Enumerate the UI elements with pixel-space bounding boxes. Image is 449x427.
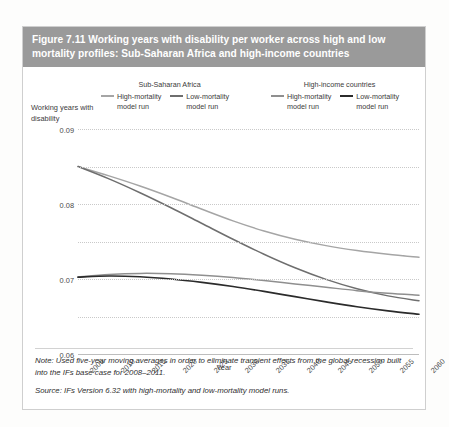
figure-note: Note: Used five-year moving averages in …: [35, 355, 413, 379]
legend-item-ssa-high-mortality[interactable]: High-mortalitymodel run: [101, 92, 161, 112]
gridline: 0.05: [78, 279, 419, 280]
legend-group-high-income: High-income countries High-mortalitymode…: [271, 80, 408, 112]
gridline: 0.08: [78, 167, 419, 168]
gridline: 0.09: [78, 129, 419, 130]
legend-item-hic-high-mortality[interactable]: High-mortalitymodel run: [271, 92, 331, 112]
legend-swatch-line-icon: [101, 95, 114, 97]
legend-group-heading: High-income countries: [271, 80, 408, 89]
divider: [35, 348, 413, 349]
legend-label-line1: High-mortality: [117, 92, 161, 101]
chart-line: [78, 167, 419, 301]
x-axis-tick-label: 2060: [429, 357, 447, 375]
legend-item-hic-low-mortality[interactable]: Low-mortalitymodel run: [340, 92, 399, 112]
gridline: 0.07: [78, 204, 419, 205]
chart-legend: Sub-Saharan Africa High-mortalitymodel r…: [101, 80, 421, 124]
gridline: 0.04: [78, 317, 419, 318]
legend-swatch-line-icon: [170, 95, 183, 97]
y-axis-tick-label: 0.08: [60, 201, 74, 210]
gridline: 0.06: [78, 242, 419, 243]
legend-swatch-line-icon: [340, 95, 353, 97]
y-axis-tick-label: 0.09: [60, 126, 74, 135]
legend-label-line2: model run: [186, 102, 218, 111]
legend-item-ssa-low-mortality[interactable]: Low-mortalitymodel run: [170, 92, 229, 112]
figure-source: Source: IFs Version 6.32 with high-morta…: [35, 385, 413, 397]
y-axis-tick-label: 0.07: [60, 276, 74, 285]
legend-label-line1: High-mortality: [287, 92, 331, 101]
chart-line: [78, 167, 419, 258]
legend-label-line1: Low-mortality: [186, 92, 229, 101]
figure-container: Figure 7.11 Working years with disabilit…: [22, 26, 426, 410]
legend-label-line2: model run: [117, 102, 149, 111]
legend-label-line1: Low-mortality: [356, 92, 399, 101]
legend-group-ssa: Sub-Saharan Africa High-mortalitymodel r…: [101, 80, 238, 112]
chart-line: [78, 276, 419, 314]
legend-swatch-line-icon: [271, 95, 284, 97]
chart-panel: Working years with disability Sub-Sahara…: [23, 67, 425, 388]
legend-label-line2: model run: [287, 102, 319, 111]
legend-label-line2: model run: [356, 102, 388, 111]
y-axis-title: Working years with disability: [31, 103, 97, 124]
legend-group-heading: Sub-Saharan Africa: [101, 80, 238, 89]
plot-area: 0.030.040.050.060.070.080.09: [78, 129, 419, 354]
figure-notes: Note: Used five-year moving averages in …: [23, 348, 425, 403]
figure-title: Figure 7.11 Working years with disabilit…: [23, 27, 425, 67]
